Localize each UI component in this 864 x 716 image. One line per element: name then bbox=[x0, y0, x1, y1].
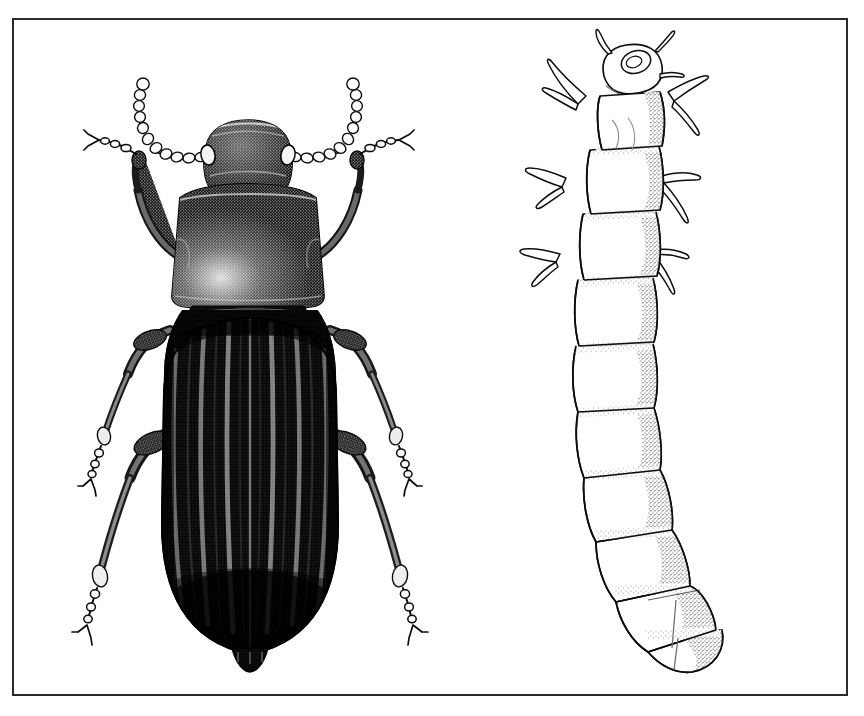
figure-larva bbox=[520, 29, 723, 672]
illustration-plate bbox=[0, 0, 864, 716]
leg-mid-right bbox=[330, 326, 422, 496]
antenna-left bbox=[133, 78, 207, 164]
larva-head-capsule bbox=[596, 29, 684, 97]
leg-hind-left bbox=[72, 426, 173, 645]
beetle-abdomen-tip bbox=[232, 648, 268, 672]
leg-hind-right bbox=[327, 426, 428, 645]
leg-mid-left bbox=[78, 326, 170, 496]
antenna-right bbox=[288, 78, 362, 164]
figure-adult-beetle bbox=[72, 78, 428, 710]
beetle-pronotum bbox=[165, 180, 335, 312]
figure-canvas bbox=[0, 0, 864, 716]
